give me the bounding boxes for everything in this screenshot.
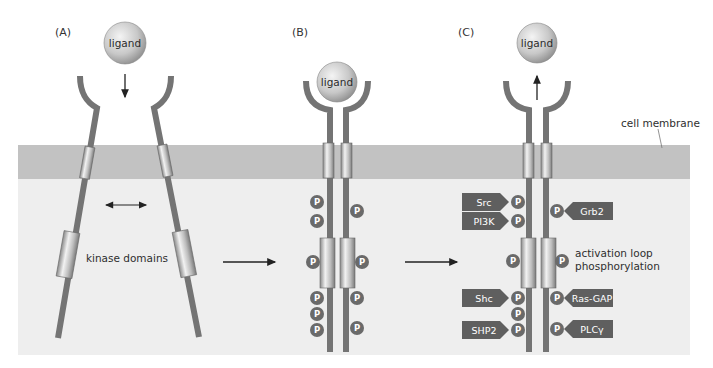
membrane-label: cell membrane xyxy=(621,117,700,129)
svg-text:PLCγ: PLCγ xyxy=(580,324,604,335)
activation-loop-label-line1: activation loop xyxy=(575,247,653,259)
panel-b-label: (B) xyxy=(292,26,308,39)
svg-text:P: P xyxy=(515,309,521,319)
kinase-domain-b-right xyxy=(340,238,355,288)
tm-segment-c-left xyxy=(523,143,534,178)
svg-text:P: P xyxy=(314,309,320,319)
svg-text:P: P xyxy=(354,323,360,333)
kinase-domain-c-left xyxy=(521,238,536,288)
tm-segment-c-right xyxy=(541,143,552,178)
tag-plc-gamma: PLCγ xyxy=(564,320,613,338)
svg-text:P: P xyxy=(515,293,521,303)
svg-text:P: P xyxy=(359,257,365,267)
svg-text:SHP2: SHP2 xyxy=(472,325,497,336)
svg-text:P: P xyxy=(554,293,560,303)
tm-segment-b-left xyxy=(323,143,334,178)
svg-text:P: P xyxy=(310,257,316,267)
svg-text:P: P xyxy=(354,206,360,216)
tag-shp2: SHP2 xyxy=(462,321,509,339)
tag-shc: Shc xyxy=(462,289,509,307)
svg-text:Shc: Shc xyxy=(475,293,492,304)
tm-segment-b-right xyxy=(341,143,352,178)
kinase-domain-c-right xyxy=(541,238,556,288)
svg-text:PI3K: PI3K xyxy=(474,216,496,227)
svg-text:Ras-GAP: Ras-GAP xyxy=(572,293,613,304)
svg-text:P: P xyxy=(559,256,565,266)
svg-text:P: P xyxy=(554,324,560,334)
svg-text:Grb2: Grb2 xyxy=(580,206,603,217)
kinase-domains-label: kinase domains xyxy=(86,252,168,264)
svg-text:Src: Src xyxy=(477,197,492,208)
svg-text:P: P xyxy=(314,293,320,303)
tag-pi3k: PI3K xyxy=(462,212,509,230)
svg-text:P: P xyxy=(515,197,521,207)
tag-grb2: Grb2 xyxy=(564,202,613,220)
activation-loop-label-line2: phosphorylation xyxy=(575,260,660,272)
rtk-activation-diagram: cell membrane (A) ligand kinase domains … xyxy=(0,0,713,368)
svg-text:P: P xyxy=(314,325,320,335)
ligand-c-label: ligand xyxy=(521,37,553,49)
panel-a-label: (A) xyxy=(55,26,71,39)
svg-text:P: P xyxy=(515,216,521,226)
ligand-b-label: ligand xyxy=(321,76,353,88)
cell-membrane xyxy=(18,145,690,179)
ligand-a-label: ligand xyxy=(109,37,141,49)
svg-text:P: P xyxy=(510,256,516,266)
tag-ras-gap: Ras-GAP xyxy=(564,289,613,307)
tag-src: Src xyxy=(462,193,509,211)
svg-text:P: P xyxy=(354,293,360,303)
svg-text:P: P xyxy=(314,197,320,207)
svg-text:P: P xyxy=(515,325,521,335)
kinase-domain-b-left xyxy=(320,238,335,288)
panel-c-label: (C) xyxy=(458,26,474,39)
svg-text:P: P xyxy=(314,216,320,226)
svg-text:P: P xyxy=(554,206,560,216)
